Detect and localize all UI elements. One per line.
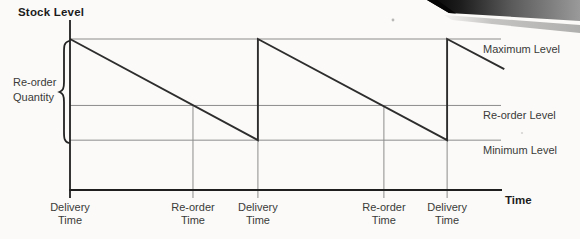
reorder-quantity-annotation: Re-order Quantity xyxy=(13,75,56,105)
reorder-level-label: Re-order Level xyxy=(483,109,556,121)
delivery-time-label: Delivery Time xyxy=(43,201,97,226)
scan-artifact-corner xyxy=(427,0,580,33)
y-axis-title: Stock Level xyxy=(18,6,84,18)
reorder-quantity-brace xyxy=(60,41,70,143)
reorder-time-label: Re-order Time xyxy=(166,201,220,226)
delivery-time-label: Delivery Time xyxy=(231,201,285,226)
scan-speck xyxy=(392,19,395,22)
x-axis-title: Time xyxy=(505,194,532,206)
reorder-quantity-line1: Re-order xyxy=(13,75,56,90)
scan-speck xyxy=(521,132,523,134)
delivery-time-label: Delivery Time xyxy=(420,201,474,226)
reorder-quantity-line2: Quantity xyxy=(13,90,56,105)
scanned-inventory-chart-page: Stock Level Re-order Quantity Time Maxim… xyxy=(0,0,580,239)
reorder-time-label: Re-order Time xyxy=(357,201,411,226)
minimum-level-label: Minimum Level xyxy=(483,144,557,156)
stock-level-sawtooth-line xyxy=(70,39,504,140)
maximum-level-label: Maximum Level xyxy=(483,43,560,55)
